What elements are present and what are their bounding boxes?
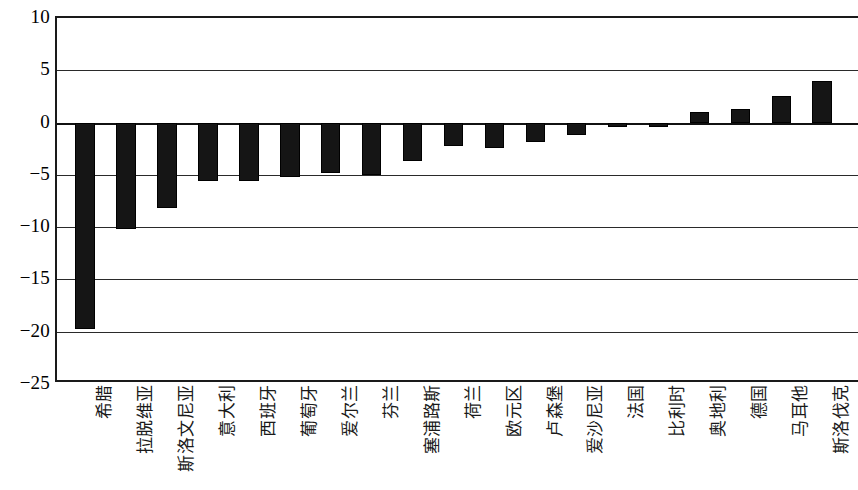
y-axis-tick-label: 0 bbox=[2, 111, 50, 130]
bar bbox=[608, 123, 628, 127]
y-axis-tick-label: 10 bbox=[2, 7, 50, 26]
y-axis-tick-label: 5 bbox=[2, 59, 50, 78]
bar bbox=[157, 123, 177, 209]
bar bbox=[812, 81, 832, 123]
y-axis-tick-label: −25 bbox=[2, 373, 50, 392]
y-axis-tick-label: −20 bbox=[2, 320, 50, 339]
y-axis-tick-label: −10 bbox=[2, 216, 50, 235]
bar bbox=[649, 123, 669, 127]
bars-group bbox=[57, 18, 858, 380]
x-axis-tick-label: 斯洛文尼亚 bbox=[176, 384, 198, 490]
bar bbox=[526, 123, 546, 143]
bar bbox=[731, 109, 751, 123]
x-axis-tick-label: 爱沙尼亚 bbox=[585, 384, 607, 490]
x-axis-tick-label: 拉脱维亚 bbox=[135, 384, 157, 490]
bar bbox=[485, 123, 505, 148]
bar-chart: 1050−5−10−15−20−25 希腊拉脱维亚斯洛文尼亚意大利西班牙葡萄牙爱… bbox=[0, 0, 858, 490]
bar bbox=[403, 123, 423, 162]
x-axis-tick-label: 比利时 bbox=[667, 384, 689, 490]
x-axis-tick-label: 马耳他 bbox=[790, 384, 812, 490]
bar bbox=[362, 123, 382, 175]
x-axis-tick-label: 西班牙 bbox=[258, 384, 280, 490]
x-axis-tick-label: 葡萄牙 bbox=[299, 384, 321, 490]
bar bbox=[75, 123, 95, 329]
x-axis-tick-label: 荷兰 bbox=[463, 384, 485, 490]
bar bbox=[772, 96, 792, 122]
plot-area bbox=[55, 16, 858, 382]
bar bbox=[198, 123, 218, 182]
x-axis-tick-label: 法国 bbox=[626, 384, 648, 490]
bar bbox=[444, 123, 464, 146]
bar bbox=[690, 112, 710, 122]
x-axis-tick-label: 斯洛伐克 bbox=[831, 384, 853, 490]
bar bbox=[280, 123, 300, 177]
x-axis-tick-label: 卢森堡 bbox=[545, 384, 567, 490]
bar bbox=[239, 123, 259, 182]
x-axis-tick-label: 奥地利 bbox=[708, 384, 730, 490]
y-axis-tick-label: −15 bbox=[2, 268, 50, 287]
x-axis-tick-label: 芬兰 bbox=[381, 384, 403, 490]
bar bbox=[567, 123, 587, 136]
x-axis-tick-label: 意大利 bbox=[217, 384, 239, 490]
x-axis-tick-label: 塞浦路斯 bbox=[422, 384, 444, 490]
x-axis: 希腊拉脱维亚斯洛文尼亚意大利西班牙葡萄牙爱尔兰芬兰塞浦路斯荷兰欧元区卢森堡爱沙尼… bbox=[55, 384, 858, 490]
y-axis-tick-label: −5 bbox=[2, 163, 50, 182]
y-axis: 1050−5−10−15−20−25 bbox=[0, 0, 50, 490]
bar bbox=[321, 123, 341, 173]
x-axis-tick-label: 欧元区 bbox=[504, 384, 526, 490]
x-axis-tick-label: 德国 bbox=[749, 384, 771, 490]
bar bbox=[116, 123, 136, 230]
x-axis-tick-label: 爱尔兰 bbox=[340, 384, 362, 490]
x-axis-tick-label: 希腊 bbox=[94, 384, 116, 490]
